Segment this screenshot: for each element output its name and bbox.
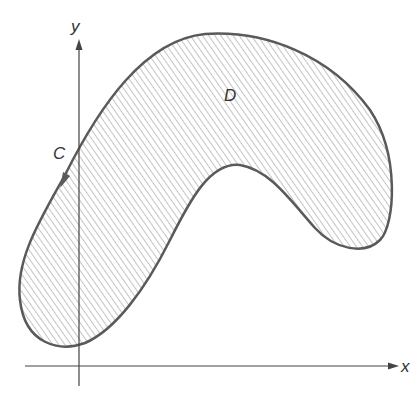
x-axis-label: x — [401, 358, 410, 375]
diagram-canvas — [0, 0, 414, 394]
region-d — [19, 34, 392, 347]
x-axis-arrow-icon — [388, 363, 399, 370]
region-label: D — [224, 87, 236, 104]
y-axis-label: y — [71, 18, 80, 35]
y-axis-arrow-icon — [76, 39, 83, 50]
curve-label: C — [53, 145, 65, 162]
